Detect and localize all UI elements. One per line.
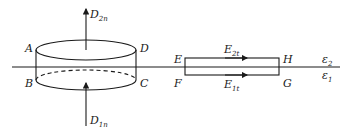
label-epsilon-2: ε2 [322, 53, 333, 68]
label-h: H [282, 53, 293, 66]
boundary-conditions-diagram: A D B C D2n D1n E F H G E2t E1t ε2 ε1 [0, 0, 345, 134]
label-a: A [24, 42, 33, 55]
label-b: B [24, 77, 33, 90]
label-d: D [139, 42, 149, 55]
label-e1t: E1t [223, 78, 239, 93]
label-d1n: D1n [89, 114, 108, 129]
label-epsilon-1: ε1 [322, 69, 332, 84]
label-e: E [173, 53, 182, 66]
label-d2n: D2n [89, 8, 108, 23]
pillbox-bottom-back-dashed [36, 70, 136, 80]
label-f: F [173, 77, 182, 90]
label-e2t: E2t [223, 43, 239, 58]
label-c: C [140, 77, 149, 90]
label-g: G [283, 77, 292, 90]
